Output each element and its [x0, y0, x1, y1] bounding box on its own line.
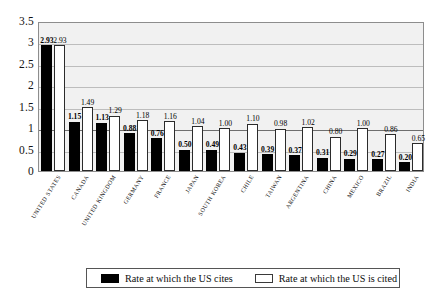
x-axis-label: Japan: [182, 173, 200, 195]
bar-group: 0.881.18: [124, 23, 152, 171]
bar-us-cites: [124, 133, 135, 171]
plot-area: 2.932.931.151.491.131.290.881.180.761.16…: [38, 22, 424, 172]
y-axis-tick-label: 2.5: [0, 59, 34, 71]
bar-group: 0.310.80: [317, 23, 345, 171]
bar-us-is-cited: [357, 128, 368, 171]
bar-us-is-cited: [54, 45, 65, 171]
y-axis-tick-label: 0: [0, 166, 34, 178]
y-axis-tick-label: 3: [0, 38, 34, 50]
citation-rate-bar-chart: 3.532.521.510.50 2.932.931.151.491.131.2…: [0, 0, 437, 305]
legend-item-us-cites: Rate at which the US cites: [101, 273, 233, 284]
legend-item-us-is-cited: Rate at which the US is cited: [255, 273, 397, 284]
y-axis-tick-label: 1.5: [0, 102, 34, 114]
bar-us-cites: [96, 123, 107, 171]
y-axis-tick-label: 0.5: [0, 145, 34, 157]
legend-swatch-white-icon: [255, 274, 273, 283]
x-axis-category-labels: United StatesCanadaUnited KingdomGermany…: [38, 173, 424, 258]
bar-us-is-cited: [385, 134, 396, 171]
legend-label-us-is-cited: Rate at which the US is cited: [279, 273, 397, 284]
legend-label-us-cites: Rate at which the US cites: [125, 273, 233, 284]
x-axis-label: South Korea: [196, 173, 228, 217]
bar-us-cites: [151, 138, 162, 171]
bar-us-cites: [399, 162, 410, 171]
bar-us-cites: [206, 150, 217, 171]
legend-swatch-black-icon: [101, 274, 119, 283]
bar-us-cites: [179, 150, 190, 171]
x-axis-label: Brazil: [373, 173, 393, 198]
bar-group: 2.932.93: [41, 23, 69, 171]
x-axis-label: Canada: [68, 173, 90, 201]
bar-groups: 2.932.931.151.491.131.290.881.180.761.16…: [39, 23, 423, 171]
bar-us-cites: [69, 122, 80, 171]
bar-us-cites: [262, 154, 273, 171]
bar-group: 0.761.16: [151, 23, 179, 171]
x-axis-label: Germany: [120, 173, 145, 206]
bar-group: 0.291.00: [344, 23, 372, 171]
x-axis-label: Taiwan: [262, 173, 283, 199]
bar-us-cites: [234, 153, 245, 171]
y-axis-tick-label: 3.5: [0, 16, 34, 28]
bar-value-label: 0.65: [401, 135, 435, 143]
bar-us-is-cited: [137, 120, 148, 171]
x-axis-label: Mexico: [345, 173, 366, 200]
x-axis-label: United States: [29, 173, 63, 220]
chart-legend: Rate at which the US cites Rate at which…: [86, 268, 400, 288]
bar-group: 1.131.29: [96, 23, 124, 171]
bar-us-cites: [372, 159, 383, 171]
bar-group: 0.270.86: [372, 23, 400, 171]
x-axis-label: India: [403, 173, 421, 194]
y-axis-tick-label: 1: [0, 123, 34, 135]
x-axis-label: Chile: [238, 173, 256, 194]
bar-group: 0.200.65: [399, 23, 427, 171]
y-axis-tick-label: 2: [0, 81, 34, 93]
y-axis: 3.532.521.510.50: [0, 15, 34, 175]
bar-us-cites: [317, 158, 328, 171]
bar-us-is-cited: [412, 143, 423, 171]
x-axis-label: France: [152, 173, 173, 200]
bar-us-cites: [41, 45, 52, 171]
x-axis-label: China: [320, 173, 339, 195]
bar-us-cites: [289, 155, 300, 171]
x-axis-label: Argentina: [283, 173, 311, 210]
bar-us-cites: [344, 159, 355, 171]
bar-group: 1.151.49: [69, 23, 97, 171]
